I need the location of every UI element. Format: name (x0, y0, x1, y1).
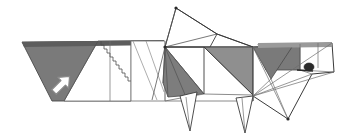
eye-mark (304, 63, 314, 71)
body-hump-panel (165, 8, 253, 47)
eye-underline (297, 70, 313, 71)
midsection-panel (131, 41, 165, 101)
origami-diagram-figure: Origami animal step diagram (0, 0, 337, 137)
hump-apex-node (174, 6, 177, 9)
head-top-strip (258, 42, 332, 48)
midsection-group (131, 41, 165, 101)
muzzle-node (286, 117, 289, 120)
front-leg-point (180, 92, 197, 131)
body-group (152, 6, 253, 101)
body-center-node (163, 45, 166, 48)
belly-shaded-wedge (163, 47, 204, 97)
origami-diagram-canvas: Origami animal step diagram (0, 0, 337, 137)
head-group (253, 42, 334, 121)
